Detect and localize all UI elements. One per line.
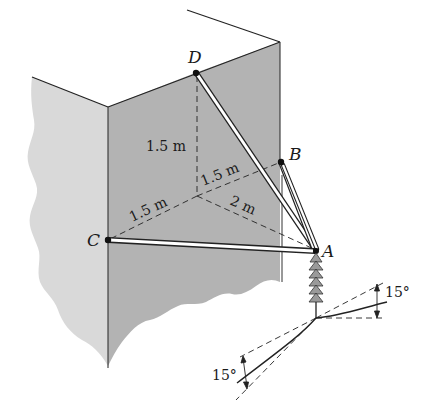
label-point-a: A — [320, 241, 334, 261]
point-b-marker — [278, 159, 284, 165]
label-dim-od: 1.5 m — [146, 138, 186, 154]
label-angle-left: 15° — [212, 367, 237, 383]
point-d-marker — [193, 70, 199, 76]
label-point-b: B — [288, 144, 302, 164]
insulator-icon — [309, 253, 323, 302]
point-c-marker — [105, 237, 111, 243]
label-point-d: D — [187, 47, 202, 67]
wire-left — [237, 318, 316, 383]
wire-right-ref-upper — [316, 283, 383, 318]
diagram-figure: D B C A 1.5 m 1.5 m 1.5 m 2 m 15° 15° — [0, 0, 422, 413]
left-wall-face — [28, 77, 108, 366]
statics-diagram: D B C A 1.5 m 1.5 m 1.5 m 2 m 15° 15° — [0, 0, 422, 413]
wall-top-edge-back — [187, 10, 280, 42]
label-point-c: C — [87, 230, 100, 250]
label-angle-right: 15° — [385, 284, 410, 300]
